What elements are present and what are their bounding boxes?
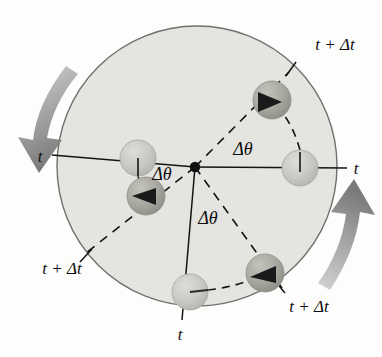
label-delta-theta-lower: Δθ: [197, 208, 218, 228]
rotation-axis-hub: [190, 162, 200, 172]
sphere-left-t: [120, 140, 156, 176]
rotational-motion-diagram: t t t t + Δt t + Δt t + Δt Δθ Δθ Δθ: [0, 0, 382, 357]
diagram-canvas: t t t t + Δt t + Δt t + Δt Δθ Δθ Δθ: [0, 0, 382, 357]
label-t-right: t: [354, 159, 360, 178]
sphere-topright-tdt: [253, 81, 291, 119]
label-t-plus-dt-topright: t + Δt: [315, 35, 356, 54]
label-delta-theta-upper: Δθ: [232, 139, 253, 159]
label-t-bottom: t: [178, 325, 184, 344]
sphere-bottom-t: [172, 274, 208, 310]
label-t-plus-dt-bottomleft: t + Δt: [42, 259, 83, 278]
label-t-plus-dt-bottomright: t + Δt: [289, 297, 330, 316]
radius-t-right: [195, 167, 347, 168]
sphere-right-t: [282, 150, 318, 186]
label-delta-theta-left: Δθ: [151, 164, 172, 184]
sphere-bottomright-tdt: [246, 254, 284, 292]
